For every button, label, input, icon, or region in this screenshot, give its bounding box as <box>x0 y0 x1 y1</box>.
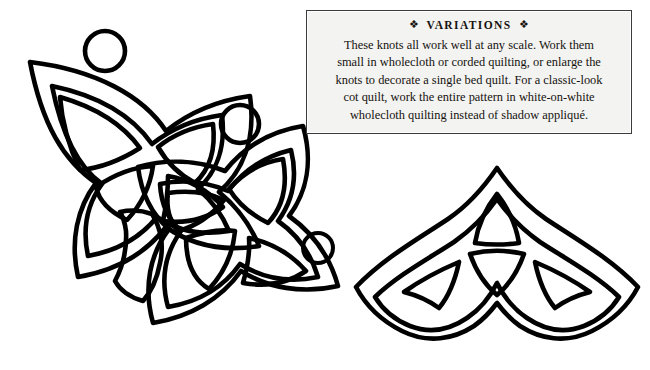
diamond-ornament-left-icon: ❖ <box>409 19 419 30</box>
variations-body-line: These knots all work well at any scale. … <box>317 37 621 55</box>
variations-body-line: small in wholecloth or corded quilting, … <box>317 54 621 72</box>
knot-left-se-leaf-nw <box>167 192 224 231</box>
circle-top-left <box>85 31 125 71</box>
variations-note-box: ❖VARIATIONS❖ These knots all work well a… <box>306 10 632 134</box>
triquetra-knot-right <box>356 168 638 339</box>
diamond-ornament-right-icon: ❖ <box>519 19 529 30</box>
variations-body-line: cot quilt, work the entire pattern in wh… <box>317 89 621 107</box>
variations-body-line: wholecloth quilting instead of shadow ap… <box>317 107 621 125</box>
triquetra-inner <box>375 199 619 330</box>
variations-body: These knots all work well at any scale. … <box>317 37 621 125</box>
pattern-page: ❖VARIATIONS❖ These knots all work well a… <box>0 0 650 370</box>
variations-body-line: knots to decorate a single bed quilt. Fo… <box>317 72 621 90</box>
quaternary-knot-left <box>30 62 338 323</box>
triquetra-opening-center <box>470 251 524 295</box>
variations-title-text: VARIATIONS <box>419 19 518 32</box>
variations-title: ❖VARIATIONS❖ <box>317 19 621 32</box>
